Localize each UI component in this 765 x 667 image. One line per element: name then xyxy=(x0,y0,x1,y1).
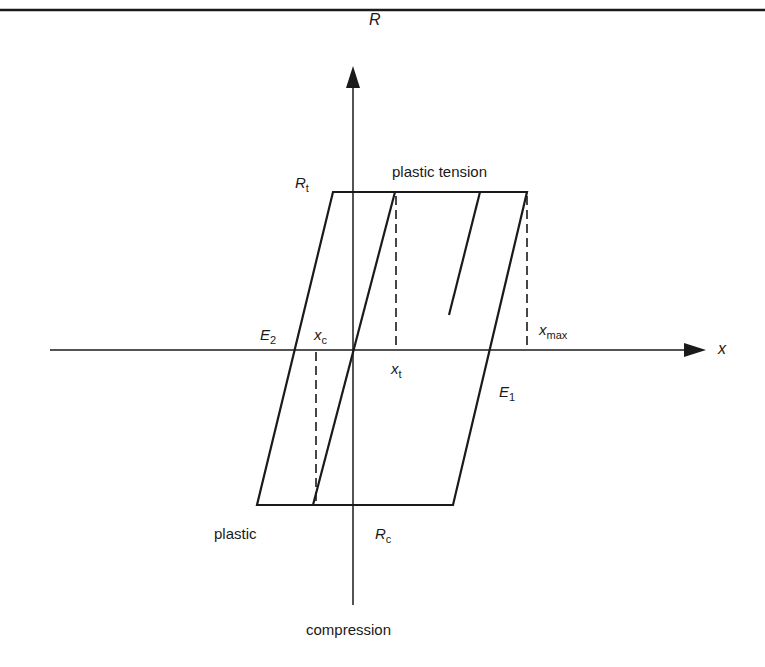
hysteresis-diagram xyxy=(0,0,765,667)
plastic-tension-label: plastic tension xyxy=(392,164,487,179)
xmax-label: xmax xyxy=(539,322,567,341)
rc-label: Rc xyxy=(375,526,391,545)
xt-sub: t xyxy=(399,368,402,380)
e1-sub: 1 xyxy=(509,391,515,403)
xt-label: xt xyxy=(391,361,402,380)
partial-unloading-line xyxy=(449,192,480,315)
e2-main: E xyxy=(260,326,270,343)
x-axis-arrow-icon xyxy=(684,343,706,357)
xc-label: xc xyxy=(314,327,327,346)
xmax-sub: max xyxy=(547,329,568,341)
rc-sub: c xyxy=(386,533,392,545)
rc-main: R xyxy=(375,525,386,542)
elastic-line-through-origin xyxy=(313,192,395,505)
compression-label: compression xyxy=(306,622,391,637)
r-axis-label: R xyxy=(369,12,381,28)
e1-main: E xyxy=(499,383,509,400)
e2-sub: 2 xyxy=(270,334,276,346)
e1-label: E1 xyxy=(499,384,515,403)
xt-main: x xyxy=(391,360,399,377)
xmax-main: x xyxy=(539,321,547,338)
xc-sub: c xyxy=(322,334,328,346)
xc-main: x xyxy=(314,326,322,343)
hysteresis-loop xyxy=(257,192,527,505)
rt-sub: t xyxy=(306,182,309,194)
e2-label: E2 xyxy=(260,327,276,346)
plastic-label: plastic xyxy=(214,526,257,541)
rt-main: R xyxy=(295,174,306,191)
x-axis-label: x xyxy=(718,341,726,357)
r-axis-arrow-icon xyxy=(346,66,360,88)
rt-label: Rt xyxy=(295,175,309,194)
